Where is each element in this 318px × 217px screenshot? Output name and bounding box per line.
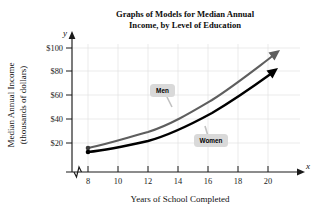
y-tick-label-20: $20 <box>50 139 63 148</box>
y-tick-label-60: $60 <box>50 91 63 100</box>
chart-title-line-2: Income, by Level of Education <box>129 20 241 30</box>
men-start-point-marker <box>86 146 91 151</box>
y-axis-symbol: y <box>62 28 67 38</box>
y-tick-label-100: $100 <box>46 44 63 53</box>
x-tick-label-12: 12 <box>144 177 152 186</box>
women-start-point-marker <box>86 150 91 155</box>
women-callout-label: Women <box>200 137 223 144</box>
x-tick-label-20: 20 <box>264 177 272 186</box>
x-tick-label-18: 18 <box>234 177 242 186</box>
chart-title-line-1: Graphs of Models for Median Annual <box>116 9 255 19</box>
x-axis-symbol: x <box>305 161 310 171</box>
y-tick-label-80: $80 <box>50 67 63 76</box>
y-tick-label-40: $40 <box>50 115 63 124</box>
men-callout-label: Men <box>156 87 169 94</box>
income-education-line-chart: Graphs of Models for Median Annual Incom… <box>0 0 318 217</box>
x-axis-title: Years of School Completed <box>131 194 230 204</box>
y-axis-title-line-1: Median Annual Income <box>6 63 16 148</box>
x-tick-label-10: 10 <box>114 177 122 186</box>
x-tick-label-16: 16 <box>204 177 212 186</box>
x-tick-label-14: 14 <box>174 177 183 186</box>
chart-figure: Graphs of Models for Median Annual Incom… <box>0 0 318 217</box>
y-axis-title-line-2: (thousands of dollars) <box>18 66 28 145</box>
x-tick-label-8: 8 <box>86 177 90 186</box>
